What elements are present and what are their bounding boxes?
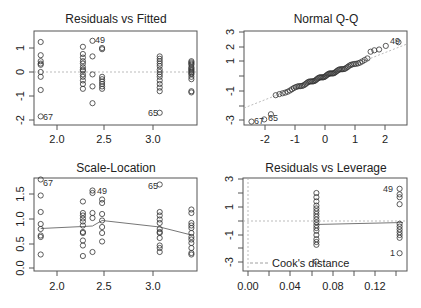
x-tick: 0.08 [322,280,343,292]
panel-title: Residuals vs Leverage [265,161,387,175]
y-tick: -1 [223,230,235,240]
data-point [80,44,85,49]
data-point [383,43,388,48]
data-point [157,235,162,240]
x-tick: -1 [290,133,300,145]
smooth-line [315,223,403,225]
data-point [80,253,85,258]
y-tick: 3 [223,176,235,182]
data-point [189,89,194,94]
legend-label: Cook's distance [272,257,349,269]
point-label: 49 [95,35,105,45]
panel-residuals-vs-fitted: Residuals vs Fitted 2.0 2.5 3.0 -2 -1 0 … [14,12,197,145]
data-point [90,215,95,220]
plot-frame [34,178,197,271]
data-point [100,224,105,229]
y-tick: 1 [223,204,235,210]
data-point [80,238,85,243]
data-point [80,223,85,228]
y-tick: -1 [224,86,236,96]
data-points [314,186,402,264]
data-point [397,202,402,207]
data-point [157,89,162,94]
y-tick: 1.5 [14,186,26,201]
x-tick: 0.04 [279,280,300,292]
y-tick: -1 [14,91,26,101]
x-tick: 1 [352,133,358,145]
y-tick: 1.0 [14,211,26,226]
data-point [157,220,162,225]
x-tick: -2 [260,133,270,145]
point-label: 1 [390,248,395,258]
x-tick: 2.5 [96,133,111,145]
data-point [38,87,43,92]
y-tick: 1 [224,58,236,64]
x-tick: 3.0 [145,133,160,145]
x-tick: 0.00 [237,280,258,292]
data-point [38,221,43,226]
x-tick: 2 [382,133,388,145]
x-axis: 0.00 0.04 0.08 0.12 [237,271,396,292]
y-tick: -3 [224,115,236,125]
point-label: 65 [148,108,158,118]
x-tick: 2.0 [49,133,64,145]
data-point [90,249,95,254]
data-point [100,211,105,216]
y-axis: -3 -1 1 3 [223,176,243,267]
data-point [273,93,278,98]
x-tick: 3.0 [145,280,160,292]
panel-title: Residuals vs Fitted [65,12,166,26]
data-point [189,240,194,245]
point-label: 49 [97,186,107,196]
data-point [38,62,43,67]
data-point [90,54,95,59]
data-point [38,53,43,58]
x-tick: 0 [322,133,328,145]
panel-normal-qq: Normal Q-Q -2 -1 0 1 2 -3 -1 1 2 3 49 67… [224,12,407,145]
y-tick: -2 [14,115,26,125]
data-point [90,84,95,89]
data-point [157,249,162,254]
y-tick: 0.0 [14,260,26,275]
data-points [38,38,194,119]
data-point [100,45,105,50]
smooth-line [41,221,192,236]
data-point [397,251,402,256]
x-tick: 2.5 [96,280,111,292]
panel-title: Scale-Location [76,161,155,175]
data-point [100,200,105,205]
data-point [100,239,105,244]
data-point [90,101,95,106]
point-label: 49 [390,36,400,46]
panel-residuals-vs-leverage: Residuals vs Leverage 0.00 0.04 0.08 0.1… [223,161,407,292]
data-point [100,230,105,235]
y-axis: -3 -1 1 2 3 [224,29,244,125]
data-point [80,216,85,221]
data-point [38,209,43,214]
x-tick: 2.0 [49,280,64,292]
data-points [249,40,401,125]
y-tick: -3 [223,257,235,267]
data-point [100,47,105,52]
data-point [38,193,43,198]
y-tick: 0.5 [14,236,26,251]
plot-frame [34,31,197,125]
data-point [377,47,382,52]
point-label: 67 [43,112,53,122]
x-axis: 2.0 2.5 3.0 [49,125,160,145]
data-point [80,199,85,204]
y-tick: 2 [224,44,236,50]
regression-diagnostics-figure: Residuals vs Fitted 2.0 2.5 3.0 -2 -1 0 … [0,0,421,308]
y-axis: 0.0 0.5 1.0 1.5 [14,186,34,275]
data-point [90,72,95,77]
legend: Cook's distance [250,257,349,269]
data-points [38,177,194,259]
panel-scale-location: Scale-Location 2.0 2.5 3.0 0.0 0.5 1.0 1… [14,161,197,292]
data-point [38,39,43,44]
y-tick: 0 [14,69,26,75]
y-tick: 3 [224,29,236,35]
x-axis: -2 -1 0 1 2 [260,125,388,145]
data-point [90,210,95,215]
point-label: 67 [43,178,53,188]
y-tick: 1 [14,45,26,51]
